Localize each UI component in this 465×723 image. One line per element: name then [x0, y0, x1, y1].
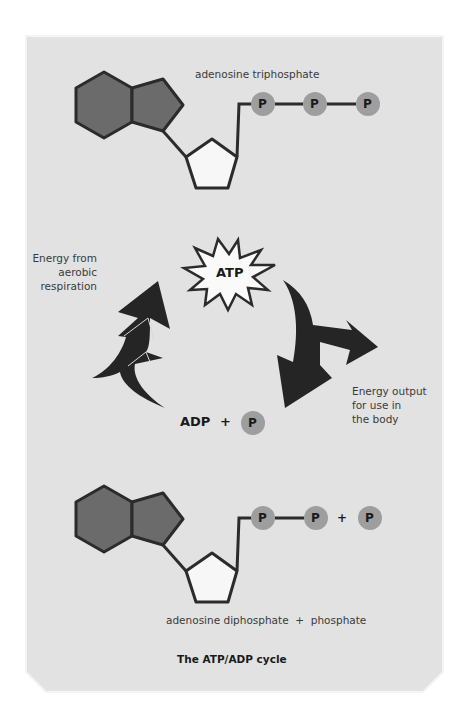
phosphate-letter: P [310, 97, 319, 111]
phosphate-letter: P [248, 416, 257, 430]
energy-input-label: Energy from aerobic respiration [7, 251, 97, 293]
energy-input-line: Energy from [7, 251, 97, 265]
adp-label: ADP [180, 415, 210, 429]
phosphate-letter: P [363, 97, 372, 111]
atp-center-label: ATP [216, 266, 243, 280]
energy-output-line: the body [352, 412, 427, 426]
adenine-hexagon-ring [76, 486, 132, 552]
plus-sign: + [337, 511, 347, 525]
phosphate-letter: P [311, 511, 320, 525]
adp-molecule-label: adenosine diphosphate + phosphate [166, 613, 366, 627]
adenine-hexagon-ring [76, 72, 132, 138]
diagram-title: The ATP/ADP cycle [177, 652, 287, 666]
panel-background [26, 36, 443, 692]
energy-input-line: aerobic [7, 265, 97, 279]
energy-output-label: Energy output for use in the body [352, 384, 427, 426]
phosphate-letter: P [365, 511, 374, 525]
phosphate-letter: P [258, 97, 267, 111]
energy-output-line: for use in [352, 398, 427, 412]
phosphate-letter: P [258, 511, 267, 525]
atp-molecule-label: adenosine triphosphate [195, 67, 319, 81]
atp-adp-cycle-diagram: adenosine triphosphate P P P Energy from… [0, 0, 465, 723]
energy-input-line: respiration [7, 279, 97, 293]
plus-sign: + [220, 415, 231, 429]
energy-output-line: Energy output [352, 384, 427, 398]
